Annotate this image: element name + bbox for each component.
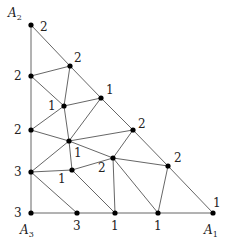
- vertex-dot: [28, 169, 33, 174]
- vertex-dot: [28, 127, 33, 132]
- vertex-dot: [28, 22, 33, 27]
- vertex-dot: [165, 163, 170, 168]
- vertex-dot: [98, 95, 103, 100]
- edge: [70, 66, 101, 98]
- vertex-label: 1: [213, 196, 221, 210]
- edge: [101, 98, 133, 130]
- edge: [72, 170, 115, 213]
- edge: [31, 130, 69, 141]
- vertex-label: 2: [174, 151, 182, 165]
- vertex-label: 1: [48, 99, 56, 113]
- edge: [168, 166, 213, 213]
- edge: [69, 130, 133, 141]
- vertex-dot: [110, 155, 115, 160]
- vertex-label: 1: [74, 146, 82, 160]
- vertex-label: 3: [14, 206, 22, 220]
- corner-labels: A2A3A1: [7, 6, 218, 239]
- edge: [69, 98, 101, 141]
- edge: [133, 130, 168, 166]
- edge: [31, 172, 77, 213]
- vertex-dot: [28, 210, 33, 215]
- edge: [113, 158, 158, 213]
- corner-label: A3: [19, 223, 34, 239]
- vertex-label: 3: [14, 165, 22, 179]
- vertex-label: 1: [111, 219, 119, 233]
- vertex-label: 3: [73, 219, 81, 233]
- vertex-dot: [112, 210, 117, 215]
- vertex-label: 2: [98, 161, 106, 175]
- vertex-label: 2: [14, 69, 22, 83]
- vertex-dot: [210, 210, 215, 215]
- vertex-label: 1: [154, 219, 162, 233]
- edge: [64, 66, 70, 106]
- vertex-label: 2: [40, 20, 48, 34]
- vertex-label: 1: [58, 172, 66, 186]
- vertex-dot: [28, 73, 33, 78]
- edge: [31, 66, 70, 76]
- vertex-label: 2: [14, 123, 22, 137]
- vertex-label: 2: [74, 51, 82, 65]
- corner-label: A1: [203, 223, 218, 239]
- edge: [31, 141, 69, 172]
- vertex-dot: [74, 210, 79, 215]
- edge: [113, 158, 115, 213]
- edge: [64, 106, 69, 141]
- vertex-dot: [67, 63, 72, 68]
- vertex-label: 1: [106, 83, 114, 97]
- vertex-dot: [130, 127, 135, 132]
- edge: [31, 170, 72, 172]
- vertex-dot: [69, 167, 74, 172]
- edge: [31, 25, 70, 66]
- edge: [158, 166, 168, 213]
- vertex-dot: [155, 210, 160, 215]
- vertex-dot: [61, 103, 66, 108]
- corner-label: A2: [7, 6, 22, 22]
- sperner-triangulation-diagram: 22211212312233111 A2A3A1: [0, 0, 234, 243]
- edge: [113, 130, 133, 158]
- edge: [69, 141, 72, 170]
- edge: [113, 158, 168, 166]
- vertex-label: 2: [138, 117, 146, 131]
- vertex-dot: [66, 138, 71, 143]
- vertex-labels: 22211212312233111: [14, 20, 221, 233]
